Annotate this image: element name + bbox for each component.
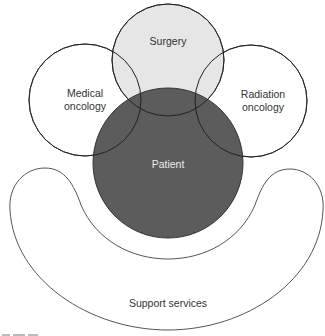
surgery-label: Surgery <box>150 35 187 48</box>
patient-label: Patient <box>152 158 185 171</box>
support-services-label: Support services <box>129 297 207 310</box>
radiation-label-line1: Radiation <box>241 88 285 101</box>
medical-label-line2: oncology <box>64 100 106 113</box>
medical-oncology-label: Medical oncology <box>64 87 106 113</box>
radiation-oncology-label: Radiation oncology <box>241 88 285 114</box>
cropped-caption <box>2 331 52 336</box>
medical-label-line1: Medical <box>64 87 106 100</box>
radiation-label-line2: oncology <box>241 101 285 114</box>
